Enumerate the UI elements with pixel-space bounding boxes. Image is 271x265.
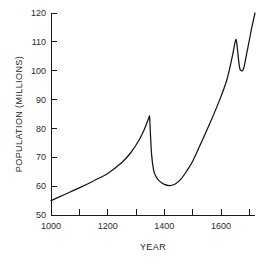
population-line-chart: 5060708090100110120 1000120014001600 YEA… xyxy=(0,0,271,265)
y-tick-label-70: 70 xyxy=(36,152,46,162)
y-tick-label-90: 90 xyxy=(36,95,46,105)
x-tick-label-1400: 1400 xyxy=(154,221,174,231)
x-axis-tick-labels: 1000120014001600 xyxy=(41,221,231,231)
x-axis-group: 1000120014001600 xyxy=(41,209,255,231)
x-tick-label-1000: 1000 xyxy=(41,221,61,231)
chart-canvas: 5060708090100110120 1000120014001600 YEA… xyxy=(0,0,271,265)
population-curve xyxy=(51,13,255,201)
y-tick-label-80: 80 xyxy=(36,124,46,134)
y-tick-label-110: 110 xyxy=(32,37,46,47)
x-tick-label-1200: 1200 xyxy=(98,221,118,231)
y-axis-group: 5060708090100110120 xyxy=(31,8,57,220)
x-tick-label-1600: 1600 xyxy=(211,221,231,231)
y-tick-label-120: 120 xyxy=(31,8,46,18)
y-axis-tick-marks xyxy=(51,13,57,215)
x-axis-title: YEAR xyxy=(140,242,166,252)
y-tick-label-50: 50 xyxy=(36,210,46,220)
y-tick-label-60: 60 xyxy=(36,181,46,191)
y-tick-label-100: 100 xyxy=(31,66,46,76)
y-axis-title: POPULATION (MILLIONS) xyxy=(14,56,24,172)
y-axis-tick-labels: 5060708090100110120 xyxy=(31,8,46,220)
